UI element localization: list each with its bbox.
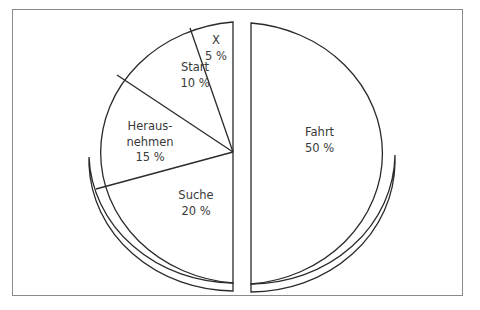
label-fahrt-name: Fahrt bbox=[305, 125, 334, 141]
label-herausnehmen: Heraus- nehmen 15 % bbox=[126, 119, 173, 166]
label-fahrt-value: 50 % bbox=[305, 141, 334, 157]
label-start: Start 10 % bbox=[180, 60, 209, 91]
label-x-name: X bbox=[205, 33, 227, 49]
label-suche-name: Suche bbox=[178, 188, 213, 204]
label-herausnehmen-line2: nehmen bbox=[126, 135, 173, 151]
label-herausnehmen-value: 15 % bbox=[126, 150, 173, 166]
label-herausnehmen-line1: Heraus- bbox=[126, 119, 173, 135]
label-start-name: Start bbox=[180, 60, 209, 76]
pie-chart bbox=[0, 0, 480, 310]
label-fahrt: Fahrt 50 % bbox=[305, 125, 334, 156]
label-suche: Suche 20 % bbox=[178, 188, 213, 219]
label-suche-value: 20 % bbox=[178, 204, 213, 220]
label-start-value: 10 % bbox=[180, 76, 209, 92]
